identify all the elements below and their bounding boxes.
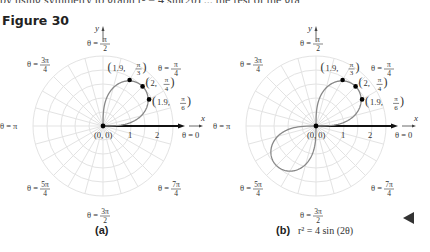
panel-caption: (a) xyxy=(95,224,109,236)
svg-text:θ =: θ = xyxy=(87,210,98,220)
tick-label-2: 2 xyxy=(368,130,372,140)
svg-text:π: π xyxy=(316,35,320,44)
svg-text:π: π xyxy=(394,95,398,103)
plotted-point xyxy=(360,97,365,102)
angle-label-3pi-4: θ =3π4 xyxy=(27,56,50,74)
point-label: (2,π4) xyxy=(359,75,388,93)
angle-label-pi: θ = π xyxy=(213,121,231,131)
svg-text:2: 2 xyxy=(316,44,320,53)
panel-b: xy(0, 0)12(1.9,π3)(2,π4)(1.9,π6)θ = 0θ =… xyxy=(213,23,418,237)
svg-text:5π: 5π xyxy=(254,180,262,189)
svg-text:θ =: θ = xyxy=(240,183,251,193)
svg-text:θ =: θ = xyxy=(27,183,38,193)
svg-text:): ) xyxy=(356,60,360,74)
x-axis-arrow-icon xyxy=(199,125,203,128)
svg-text:3: 3 xyxy=(350,69,354,77)
svg-text:θ =: θ = xyxy=(300,38,311,48)
origin-point xyxy=(101,124,106,129)
angle-label-pi-4: θ =π4 xyxy=(371,60,394,78)
tick-label-1: 1 xyxy=(128,130,132,140)
angle-label-7pi-4: θ =7π4 xyxy=(371,180,394,198)
angle-label-pi-2: θ =π2 xyxy=(87,35,110,53)
plotted-point xyxy=(127,78,132,83)
svg-text:(: ( xyxy=(152,94,156,108)
angle-label-3pi-2: θ =3π2 xyxy=(87,207,110,225)
svg-text:θ =: θ = xyxy=(87,38,98,48)
origin-label: (0, 0) xyxy=(307,130,326,140)
angle-label-7pi-4: θ =7π4 xyxy=(158,180,181,198)
back-arrow-icon[interactable] xyxy=(403,212,414,224)
svg-text:4: 4 xyxy=(43,65,47,74)
svg-text:π: π xyxy=(103,35,107,44)
polar-axis-arrow-icon xyxy=(391,124,398,129)
svg-text:2,: 2, xyxy=(364,78,370,88)
plotted-point xyxy=(340,78,345,83)
angle-label-pi-2: θ =π2 xyxy=(300,35,323,53)
svg-text:4: 4 xyxy=(174,189,178,198)
svg-text:1.9,: 1.9, xyxy=(113,63,126,73)
point-label: (1.9,π6) xyxy=(152,94,191,112)
angle-label-5pi-4: θ =5π4 xyxy=(27,180,50,198)
svg-text:3: 3 xyxy=(137,69,141,77)
svg-text:θ =: θ = xyxy=(300,210,311,220)
tick-label-2: 2 xyxy=(155,130,159,140)
point-label: (1.9,π3) xyxy=(321,60,360,78)
x-axis-label: x xyxy=(413,113,418,123)
svg-text:4: 4 xyxy=(165,85,169,93)
panel-a: xy(0, 0)12(1.9,π3)(2,π4)(1.9,π6)θ = 0θ =… xyxy=(0,23,205,236)
svg-text:θ =: θ = xyxy=(27,59,38,69)
svg-text:π: π xyxy=(174,60,178,69)
svg-text:(: ( xyxy=(321,60,325,74)
angle-label-0: θ = 0 xyxy=(182,130,199,140)
svg-text:π: π xyxy=(137,61,141,69)
origin-point xyxy=(314,124,319,129)
svg-text:2,: 2, xyxy=(151,78,157,88)
svg-text:1.9,: 1.9, xyxy=(157,97,170,107)
point-label: (1.9,π3) xyxy=(108,60,147,78)
svg-text:4: 4 xyxy=(256,65,260,74)
angle-label-pi: θ = π xyxy=(0,121,18,131)
angle-label-5pi-4: θ =5π4 xyxy=(240,180,263,198)
angle-label-pi-4: θ =π4 xyxy=(158,60,181,78)
svg-text:(: ( xyxy=(359,75,363,89)
origin-label: (0, 0) xyxy=(94,130,113,140)
y-axis-label: y xyxy=(94,23,99,33)
svg-text:π: π xyxy=(378,76,382,84)
svg-text:π: π xyxy=(350,61,354,69)
svg-text:1.9,: 1.9, xyxy=(370,97,383,107)
point-label: (1.9,π6) xyxy=(365,94,404,112)
svg-text:π: π xyxy=(181,95,185,103)
panel-equation: r² = 4 sin (2θ) xyxy=(298,225,353,237)
svg-text:2: 2 xyxy=(103,44,107,53)
x-axis-label: x xyxy=(200,113,205,123)
angle-label-0: θ = 0 xyxy=(395,130,412,140)
svg-text:3π: 3π xyxy=(254,56,262,65)
svg-text:): ) xyxy=(143,60,147,74)
svg-text:1.9,: 1.9, xyxy=(326,63,339,73)
x-axis-arrow-icon xyxy=(412,125,416,128)
svg-text:(: ( xyxy=(146,75,150,89)
y-axis-label: y xyxy=(307,23,312,33)
svg-text:θ =: θ = xyxy=(240,59,251,69)
svg-text:θ =: θ = xyxy=(158,183,169,193)
svg-text:6: 6 xyxy=(394,104,398,112)
svg-text:5π: 5π xyxy=(41,180,49,189)
svg-text:6: 6 xyxy=(181,104,185,112)
svg-text:4: 4 xyxy=(387,189,391,198)
plotted-point xyxy=(353,84,358,89)
svg-text:3π: 3π xyxy=(41,56,49,65)
svg-text:7π: 7π xyxy=(172,180,180,189)
svg-text:(: ( xyxy=(108,60,112,74)
plotted-point xyxy=(147,97,152,102)
svg-text:4: 4 xyxy=(387,69,391,78)
svg-text:): ) xyxy=(400,94,404,108)
y-axis-arrow-icon xyxy=(315,26,318,31)
svg-text:π: π xyxy=(387,60,391,69)
angle-label-3pi-2: θ =3π2 xyxy=(300,207,323,225)
svg-text:3π: 3π xyxy=(314,207,322,216)
angle-label-3pi-4: θ =3π4 xyxy=(240,56,263,74)
point-label: (2,π4) xyxy=(146,75,175,93)
tick-label-1: 1 xyxy=(341,130,345,140)
svg-text:θ =: θ = xyxy=(158,63,169,73)
svg-text:7π: 7π xyxy=(385,180,393,189)
